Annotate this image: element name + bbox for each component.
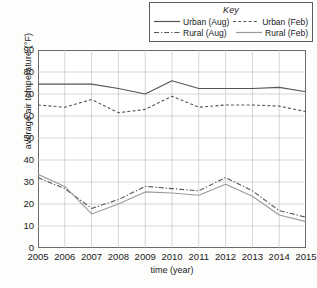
legend-entry-urban-aug: Urban (Aug) bbox=[154, 17, 229, 27]
plot-area bbox=[38, 50, 306, 248]
legend-row: Rural (Aug) Rural (Feb) bbox=[154, 27, 308, 38]
y-tick-label: 20 bbox=[8, 199, 34, 209]
y-tick-label: 10 bbox=[8, 221, 34, 231]
legend-label-urban-aug: Urban (Aug) bbox=[183, 17, 229, 27]
legend-swatch-solid-icon bbox=[154, 18, 180, 25]
x-axis-tick-labels: 2005200620072008200920102011201220132014… bbox=[38, 251, 306, 263]
gridlines bbox=[38, 50, 306, 248]
legend-title: Key bbox=[154, 5, 308, 16]
legend-entry-rural-feb: Rural (Feb) bbox=[236, 28, 308, 38]
legend-swatch-dashed-icon bbox=[233, 18, 259, 25]
legend-swatch-solid-light-icon bbox=[236, 29, 262, 36]
legend-entry-rural-aug: Rural (Aug) bbox=[154, 28, 226, 38]
x-tick-label: 2015 bbox=[289, 251, 317, 262]
legend-swatch-dashdot-icon bbox=[154, 29, 180, 36]
legend-row: Urban (Aug) Urban (Feb) bbox=[154, 16, 308, 27]
legend-label-rural-aug: Rural (Aug) bbox=[183, 28, 226, 38]
line-chart-figure: Key Urban (Aug) Urban (Feb) Rural (Au bbox=[0, 0, 317, 288]
legend-label-rural-feb: Rural (Feb) bbox=[265, 28, 308, 38]
x-axis-title: time (year) bbox=[38, 265, 306, 275]
legend-entry-urban-feb: Urban (Feb) bbox=[233, 17, 308, 27]
y-axis-title: average air temperature (°F) bbox=[23, 1, 33, 181]
chart-legend: Key Urban (Aug) Urban (Feb) Rural (Au bbox=[149, 2, 313, 42]
legend-label-urban-feb: Urban (Feb) bbox=[262, 17, 308, 27]
